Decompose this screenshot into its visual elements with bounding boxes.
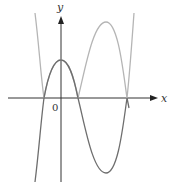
x-axis-label: x <box>161 92 168 105</box>
y-axis-arrow-icon <box>58 16 64 24</box>
quartic-curve <box>35 13 134 98</box>
origin-label: 0 <box>52 102 58 113</box>
y-axis-label: y <box>56 1 64 14</box>
graph: x y 0 <box>0 0 171 190</box>
x-axis-arrow-icon <box>150 95 158 101</box>
